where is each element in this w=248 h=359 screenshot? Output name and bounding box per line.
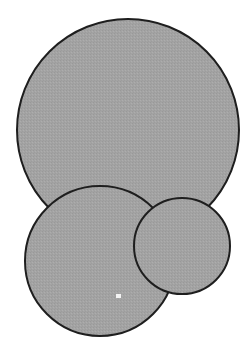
bottom-right-circle bbox=[134, 198, 230, 294]
white-dot bbox=[116, 294, 121, 298]
overlapping-circles-diagram bbox=[0, 0, 248, 359]
